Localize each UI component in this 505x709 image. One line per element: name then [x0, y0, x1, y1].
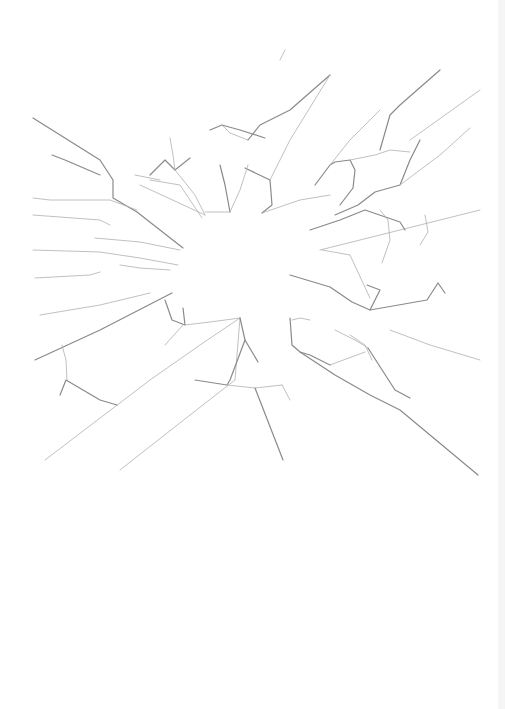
crack-pattern [0, 0, 505, 709]
shattered-glass-illustration: shattered glass crack pattern [0, 0, 505, 709]
